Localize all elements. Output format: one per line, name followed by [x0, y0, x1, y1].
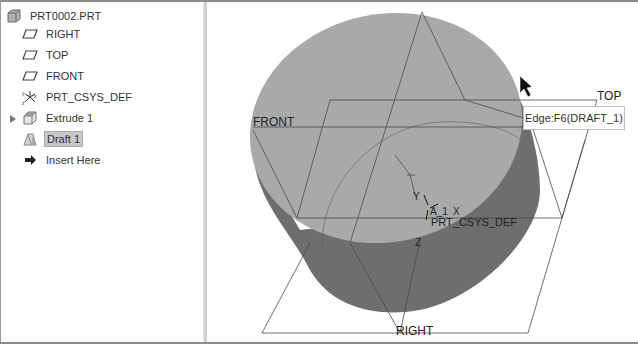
- svg-text:z: z: [22, 100, 25, 105]
- svg-text:y: y: [22, 90, 25, 96]
- datum-plane-icon: [22, 47, 38, 63]
- tree-item-extrude[interactable]: Extrude 1: [22, 108, 95, 128]
- top-plane-label: TOP: [597, 89, 621, 103]
- tree-item-csys[interactable]: yxz PRT_CSYS_DEF: [22, 87, 134, 107]
- coordinate-system-icon: yxz: [22, 89, 38, 105]
- tree-item-insert-here[interactable]: Insert Here: [22, 150, 102, 170]
- csys-z-label: Z: [415, 237, 421, 248]
- tree-item-label: Draft 1: [44, 131, 83, 147]
- tree-item-right[interactable]: RIGHT: [22, 24, 82, 44]
- model-tree: PRT0002.PRT RIGHT TOP FRONT yxz PRT_CSYS…: [1, 2, 203, 342]
- tree-item-front[interactable]: FRONT: [22, 66, 86, 86]
- tree-item-label: PRT_CSYS_DEF: [44, 90, 134, 104]
- graphics-viewport[interactable]: Y A_1 X PRT_CSYS_DEF Z FRONT TOP RIGHT: [207, 2, 638, 342]
- draft-icon: [22, 131, 38, 147]
- datum-plane-icon: [22, 68, 38, 84]
- right-plane-label: RIGHT: [396, 324, 434, 338]
- tree-item-label: Extrude 1: [44, 111, 95, 125]
- tree-item-draft[interactable]: Draft 1: [22, 129, 83, 149]
- tree-item-root[interactable]: PRT0002.PRT: [6, 6, 103, 26]
- mouse-cursor-icon: [520, 76, 532, 97]
- csys-y-label: Y: [413, 191, 420, 202]
- tree-item-label: Insert Here: [44, 153, 102, 167]
- model-graphics[interactable]: Y A_1 X PRT_CSYS_DEF Z FRONT TOP RIGHT: [207, 2, 638, 342]
- tree-item-label: PRT0002.PRT: [28, 9, 103, 23]
- expand-arrow-icon[interactable]: [10, 115, 16, 123]
- tree-item-label: RIGHT: [44, 27, 82, 41]
- front-plane-label: FRONT: [253, 115, 295, 129]
- extrude-icon: [22, 110, 38, 126]
- tree-item-label: TOP: [44, 48, 70, 62]
- part-icon: [6, 8, 22, 24]
- insert-arrow-icon: [22, 152, 38, 168]
- tree-item-label: FRONT: [44, 69, 86, 83]
- edge-tooltip: Edge:F6(DRAFT_1): [523, 106, 625, 130]
- svg-text:x: x: [34, 93, 37, 99]
- window-bottom-border: [0, 342, 638, 344]
- tree-item-top[interactable]: TOP: [22, 45, 70, 65]
- datum-plane-icon: [22, 26, 38, 42]
- csys-name-label: PRT_CSYS_DEF: [431, 216, 517, 228]
